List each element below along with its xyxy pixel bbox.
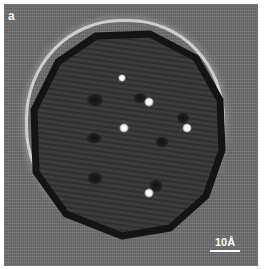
- particle-body: [34, 34, 222, 236]
- dark-blob: [87, 171, 103, 185]
- scale-bar-label: 10Å: [210, 236, 240, 248]
- dark-blob: [155, 136, 169, 148]
- scale-bar: 10Å: [210, 236, 240, 252]
- dark-blob: [86, 93, 104, 107]
- dark-blob: [86, 132, 102, 144]
- bright-spot: [119, 123, 129, 133]
- nanoparticle: [0, 0, 270, 269]
- dark-blob: [176, 112, 190, 124]
- bright-spot: [144, 188, 154, 198]
- bright-spot: [118, 74, 126, 82]
- scale-bar-line: [210, 250, 240, 252]
- bright-spot: [182, 123, 192, 133]
- bright-spot: [144, 97, 154, 107]
